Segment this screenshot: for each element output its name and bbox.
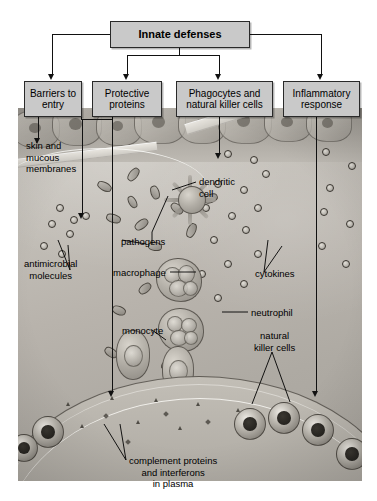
connector-line [127,55,128,74]
label-monocyte: monocyte [122,325,163,337]
connector-line [81,119,112,120]
protective-proteins-box[interactable]: Protective proteins [92,81,162,117]
label-macrophage: macrophage [113,267,166,279]
inflammatory-response-label: Inflammatory response [284,88,359,110]
connector-line [82,119,83,215]
barriers-to-entry-box[interactable]: Barriers to entry [24,81,82,117]
arrowhead [215,74,221,80]
connector-line [321,34,322,74]
inflammatory-response-box[interactable]: Inflammatory response [283,81,360,117]
connector-line [38,117,39,139]
protective-proteins-label: Protective proteins [93,88,161,110]
phagocytes-box[interactable]: Phagocytes and natural killer cells [176,81,273,117]
arrowhead [78,213,84,219]
connector-line [219,117,220,155]
arrowhead [215,153,221,159]
connector-line [249,34,322,35]
innate-defenses-box[interactable]: Innate defenses [110,21,250,48]
connector-line [127,55,219,56]
connector-line [219,55,220,74]
connector-line [112,117,113,393]
label-natural-killer-cells: natural killer cells [254,330,295,353]
label-antimicrobial-molecules: antimicrobial molecules [24,258,77,281]
connector-line [52,34,111,35]
innate-defenses-label: Innate defenses [138,28,221,40]
connector-line [316,117,317,393]
arrowhead [312,391,318,397]
label-skin-and-mucous-membranes: skin and mucous membranes [26,140,76,175]
arrowhead [317,74,323,80]
arrowhead [48,74,54,80]
barriers-to-entry-label: Barriers to entry [25,88,81,110]
connector-line [179,48,180,55]
label-cytokines: cytokines [255,268,295,280]
label-pathogens: pathogens [121,236,165,248]
label-neutrophil: neutrophil [251,307,293,319]
arrowhead [108,391,114,397]
arrowhead [123,74,129,80]
phagocytes-label: Phagocytes and natural killer cells [177,88,272,110]
label-dendritic-cell: dendritic cell [199,176,235,199]
connector-line [52,34,53,74]
label-complement-proteins: complement proteins and interferons in p… [129,455,217,490]
diagram-root: Innate defenses Barriers to entry Protec… [0,0,377,501]
